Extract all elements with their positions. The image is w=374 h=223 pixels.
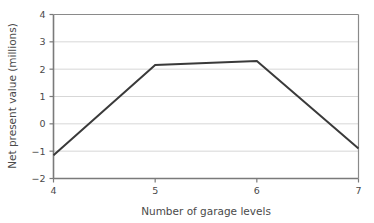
y-tick-label: 4	[39, 9, 45, 20]
x-tick-label: 5	[152, 185, 158, 196]
x-axis-label: Number of garage levels	[141, 205, 271, 217]
y-axis-label: Net present value (millions)	[6, 23, 18, 169]
line-chart: 43210−1−2 4567 Number of garage levels N…	[0, 0, 374, 223]
y-tick-label: −2	[31, 173, 45, 184]
y-tick-label: 2	[39, 64, 45, 75]
y-tick-label: −1	[31, 146, 45, 157]
x-tick-label: 7	[355, 185, 361, 196]
y-tick-label: 0	[39, 118, 45, 129]
chart-container: 43210−1−2 4567 Number of garage levels N…	[0, 0, 374, 223]
y-tick-label: 1	[39, 91, 45, 102]
y-tick-label: 3	[39, 36, 45, 47]
x-tick-label: 4	[50, 185, 56, 196]
x-tick-label: 6	[254, 185, 260, 196]
